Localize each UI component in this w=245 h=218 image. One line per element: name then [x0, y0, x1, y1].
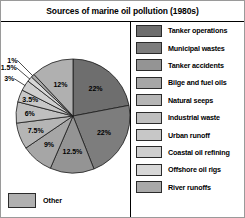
legend: Tanker operationsMunicipal wastesTanker … [132, 22, 245, 218]
legend-label: River runoffs [168, 183, 211, 192]
legend-item[interactable]: Urban runoff [132, 126, 245, 143]
legend-label: Tanker operations [168, 26, 227, 35]
slice-value-label: 6% [25, 110, 36, 117]
legend-swatch [136, 146, 162, 158]
legend-swatch [136, 181, 162, 193]
legend-swatch [136, 129, 162, 141]
legend-item[interactable]: Bilge and fuel oils [132, 74, 245, 91]
legend-label: Tanker accidents [168, 61, 224, 70]
title-bar: Sources of marine oil pollution (1980s) [1, 1, 244, 22]
pie-chart-panel: 22%22%12.5%9%7.5%6%3.5%3%1.5%1%12% [1, 22, 131, 218]
pie-chart: 22%22%12.5%9%7.5%6%3.5%3%1.5%1%12% [1, 22, 131, 218]
legend-swatch [136, 77, 162, 89]
slice-value-label: 12.5% [63, 148, 84, 155]
slice-value-label: 22% [89, 85, 104, 92]
slice-value-label: 1% [7, 57, 18, 64]
slice-leader-line [14, 79, 25, 86]
other-legend-swatch [8, 193, 36, 208]
legend-swatch [136, 59, 162, 71]
other-legend-entry[interactable]: Other [8, 193, 62, 208]
legend-label: Bilge and fuel oils [168, 78, 227, 87]
legend-item[interactable]: Municipal wastes [132, 39, 245, 56]
slice-value-label: 1.5% [1, 64, 17, 71]
legend-item[interactable]: Tanker operations [132, 22, 245, 39]
legend-label: Urban runoff [168, 131, 210, 140]
legend-swatch [136, 94, 162, 106]
legend-item[interactable]: Industrial waste [132, 109, 245, 126]
slice-value-label: 9% [44, 141, 55, 148]
legend-label: Offshore oil rigs [168, 165, 221, 174]
slice-leader-line [17, 60, 33, 76]
chart-figure: Sources of marine oil pollution (1980s) … [0, 0, 245, 218]
slice-leader-line [17, 68, 30, 79]
legend-label: Coastal oil refining [168, 148, 230, 157]
legend-swatch [136, 112, 162, 124]
legend-label: Natural seeps [168, 96, 213, 105]
legend-label: Municipal wastes [168, 44, 225, 53]
legend-item[interactable]: River runoffs [132, 179, 245, 196]
legend-label: Industrial waste [168, 113, 220, 122]
page-title: Sources of marine oil pollution (1980s) [46, 6, 198, 16]
legend-swatch [136, 164, 162, 176]
legend-item[interactable]: Natural seeps [132, 92, 245, 109]
legend-swatch [136, 25, 162, 37]
slice-value-label: 3% [4, 75, 15, 82]
other-legend-label: Other [43, 196, 62, 205]
slice-value-label: 7.5% [28, 127, 45, 134]
legend-item[interactable]: Offshore oil rigs [132, 161, 245, 178]
legend-swatch [136, 42, 162, 54]
slice-value-label: 22% [97, 129, 112, 136]
legend-item[interactable]: Tanker accidents [132, 57, 245, 74]
legend-item[interactable]: Coastal oil refining [132, 144, 245, 161]
slice-value-label: 12% [53, 81, 68, 88]
